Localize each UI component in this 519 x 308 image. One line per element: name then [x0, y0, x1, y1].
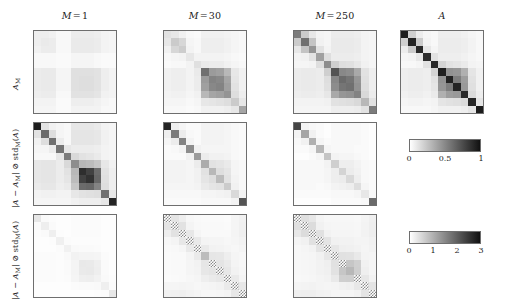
- heatmap-cell: [324, 46, 331, 53]
- heatmap-cell: [423, 68, 430, 75]
- heatmap-cell: [34, 222, 41, 229]
- heatmap-cell: [109, 282, 116, 289]
- heatmap-cell: [346, 46, 353, 53]
- heatmap-cell: [309, 175, 316, 182]
- heatmap-cell: [71, 237, 78, 244]
- heatmap-cell: [476, 68, 483, 75]
- heatmap-cell: [239, 275, 246, 282]
- heatmap-cell: [369, 61, 376, 68]
- heatmap-cell: [109, 245, 116, 252]
- colorbar-ticklabels-cbar-bottom: 0123: [409, 246, 481, 258]
- heatmap-cell: [316, 230, 323, 237]
- heatmap-cell: [339, 267, 346, 274]
- heatmap-cell: [49, 160, 56, 167]
- heatmap-cell: [216, 68, 223, 75]
- heatmap-cell: [49, 138, 56, 145]
- heatmap-cell: [354, 123, 361, 130]
- heatmap-cell: [41, 282, 48, 289]
- heatmap-cell: [239, 61, 246, 68]
- heatmap-cell: [309, 290, 316, 297]
- heatmap-cell: [324, 198, 331, 205]
- heatmap-cell: [41, 230, 48, 237]
- heatmap-cell: [309, 260, 316, 267]
- heatmap-cell: [34, 230, 41, 237]
- heatmap-cell: [369, 260, 376, 267]
- heatmap-cell: [346, 168, 353, 175]
- heatmap-cell: [331, 91, 338, 98]
- heatmap-cell: [79, 222, 86, 229]
- heatmap-cell: [56, 106, 63, 113]
- heatmap-cell: [468, 38, 475, 45]
- heatmap-cell: [86, 175, 93, 182]
- heatmap-cell: [56, 175, 63, 182]
- heatmap-cell: [224, 267, 231, 274]
- heatmap-cell: [94, 91, 101, 98]
- heatmap-cell: [179, 106, 186, 113]
- heatmap-cell: [109, 61, 116, 68]
- heatmap-cell: [164, 38, 171, 45]
- heatmap-cell: [468, 61, 475, 68]
- heatmap-cell: [369, 91, 376, 98]
- heatmap-cell: [438, 53, 445, 60]
- heatmap-cell: [339, 282, 346, 289]
- heatmap-cell: [416, 53, 423, 60]
- heatmap-cell: [64, 68, 71, 75]
- heatmap-cell: [294, 130, 301, 137]
- heatmap-cell: [101, 91, 108, 98]
- heatmap-cell: [34, 138, 41, 145]
- heatmap-cell: [216, 123, 223, 130]
- heatmap-cell: [109, 267, 116, 274]
- heatmap-cell: [354, 230, 361, 237]
- heatmap-cell: [309, 98, 316, 105]
- heatmap-cell-grid: [401, 31, 483, 113]
- heatmap-cell: [209, 190, 216, 197]
- heatmap-cell: [86, 183, 93, 190]
- heatmap-cell: [453, 68, 460, 75]
- heatmap-cell: [468, 106, 475, 113]
- heatmap-cell: [194, 68, 201, 75]
- heatmap-cell: [209, 68, 216, 75]
- heatmap-cell: [453, 31, 460, 38]
- heatmap-cell: [224, 91, 231, 98]
- heatmap-cell: [239, 190, 246, 197]
- heatmap-cell: [79, 46, 86, 53]
- heatmap-cell: [171, 38, 178, 45]
- heatmap-cell: [369, 160, 376, 167]
- heatmap-cell: [101, 198, 108, 205]
- heatmap-cell: [164, 260, 171, 267]
- heatmap-cell: [179, 183, 186, 190]
- heatmap-cell: [49, 98, 56, 105]
- heatmap-cell: [369, 145, 376, 152]
- heatmap-cell: [354, 91, 361, 98]
- heatmap-cell: [201, 153, 208, 160]
- heatmap-cell: [194, 267, 201, 274]
- heatmap-cell: [231, 38, 238, 45]
- heatmap-cell: [361, 275, 368, 282]
- heatmap-cell: [401, 83, 408, 90]
- heatmap-cell: [86, 31, 93, 38]
- heatmap-cell: [171, 53, 178, 60]
- heatmap-cell: [316, 175, 323, 182]
- heatmap-cell: [294, 267, 301, 274]
- heatmap-cell: [94, 123, 101, 130]
- heatmap-cell: [79, 260, 86, 267]
- heatmap-cell: [164, 183, 171, 190]
- heatmap-cell: [431, 53, 438, 60]
- heatmap-cell: [301, 138, 308, 145]
- heatmap-cell: [361, 230, 368, 237]
- heatmap-cell: [239, 83, 246, 90]
- heatmap-cell: [71, 123, 78, 130]
- heatmap-cell: [164, 123, 171, 130]
- heatmap-cell: [86, 230, 93, 237]
- heatmap-cell: [41, 68, 48, 75]
- heatmap-cell: [79, 160, 86, 167]
- heatmap-cell: [41, 252, 48, 259]
- heatmap-cell: [431, 61, 438, 68]
- heatmap-cell: [339, 198, 346, 205]
- heatmap-cell: [468, 31, 475, 38]
- heatmap-cell: [316, 252, 323, 259]
- heatmap-cell: [461, 31, 468, 38]
- heatmap-cell: [109, 198, 116, 205]
- heatmap-cell: [101, 61, 108, 68]
- heatmap-cell: [301, 145, 308, 152]
